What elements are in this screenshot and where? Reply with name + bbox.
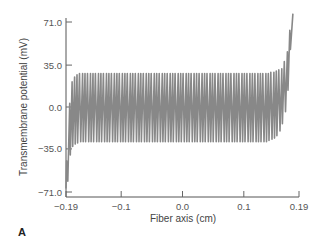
- x-tick-label: 0.19: [290, 201, 309, 212]
- x-tick-label: 0.1: [237, 201, 250, 212]
- y-tick-label: 71.0: [44, 17, 63, 28]
- x-tick-label: 0.0: [176, 201, 189, 212]
- y-tick-label: 0.0: [49, 102, 62, 113]
- y-tick-label: −35.0: [38, 143, 62, 154]
- panel-label: A: [18, 226, 26, 237]
- potential-series-line: [66, 14, 293, 189]
- y-axis-title: Transmembrane potential (mV): [18, 38, 29, 176]
- y-tick-label: 35.0: [44, 60, 63, 71]
- x-axis: −0.19−0.10.00.10.19: [54, 191, 308, 212]
- x-tick-label: −0.19: [54, 201, 78, 212]
- x-axis-title: Fiber axis (cm): [150, 213, 216, 224]
- x-tick-label: −0.1: [112, 201, 131, 212]
- y-tick-label: −71.0: [38, 187, 62, 198]
- line-chart: 71.035.00.0−35.0−71.0 −0.19−0.10.00.10.1…: [0, 0, 324, 237]
